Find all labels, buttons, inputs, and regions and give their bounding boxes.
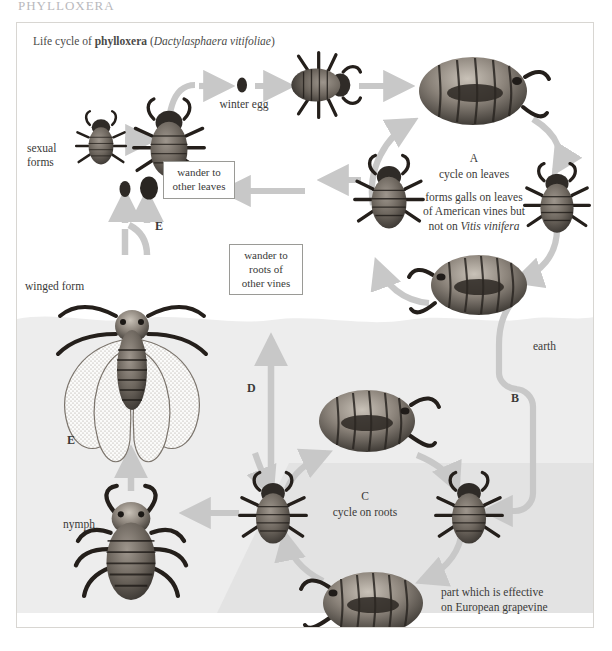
box-leaves-line1: wander to [170, 166, 228, 180]
eggs-illustration [120, 177, 159, 200]
cycle-a-note-line3: not on Vitis vinifera [389, 219, 559, 233]
box-wander-to-roots-of-other-vines[interactable]: wander to roots of other vines [229, 244, 303, 295]
cycle-a-note-line3-pre: not on [429, 220, 461, 232]
cycle-a-note-line2: of American vines but [389, 204, 559, 218]
box-roots-line1: wander to [236, 249, 296, 263]
letter-e-upper-label: E [155, 219, 163, 234]
winter-egg-illustration [237, 78, 247, 93]
letter-b-label: B [511, 391, 519, 406]
box-leaves-line2: other leaves [170, 180, 228, 194]
letter-d-label: D [247, 381, 256, 396]
effective-part-line1: part which is effective [441, 585, 548, 600]
top-nymph-illustration [291, 53, 360, 118]
diagram-graphics [17, 23, 594, 628]
wander-leaves-arrows [225, 180, 361, 191]
box-roots-line3: other vines [236, 277, 296, 291]
cycle-a-adult-female-illustration [419, 57, 549, 125]
cycle-a-note-line3-italic: Vitis vinifera [461, 220, 520, 232]
winter-egg-label: winter egg [213, 97, 275, 111]
winged-form-label: winged form [25, 279, 84, 293]
earth-label: earth [533, 339, 556, 353]
cycle-a-letter: A [389, 151, 559, 165]
cycle-a-title: cycle on leaves [389, 167, 559, 181]
page-header: PHYLLOXERA [18, 0, 115, 14]
sexual-forms-label: sexual forms [27, 141, 87, 170]
effective-part-note: part which is effective on European grap… [441, 585, 548, 615]
cycle-a-note-line1: forms galls on leaves [389, 190, 559, 204]
cycle-a-text-block: A cycle on leaves forms galls on leaves … [389, 151, 559, 233]
diagram-stage: winter egg sexual forms winged form nymp… [17, 23, 594, 628]
effective-part-line2: on European grapevine [441, 600, 548, 615]
box-wander-to-other-leaves[interactable]: wander to other leaves [163, 161, 235, 199]
letter-e-lower-label: E [67, 433, 75, 448]
figure-frame: Life cycle of phylloxera (Dactylasphaera… [16, 22, 594, 628]
cycle-c-letter: C [305, 489, 425, 503]
cycle-c-title: cycle on roots [305, 505, 425, 519]
cycle-a-bottom-adult-illustration [409, 255, 527, 315]
nymph-label: nymph [63, 517, 95, 531]
box-roots-line2: roots of [236, 263, 296, 277]
cycle-c-text-block: C cycle on roots [305, 489, 425, 520]
e-transition-arrows [125, 195, 147, 255]
